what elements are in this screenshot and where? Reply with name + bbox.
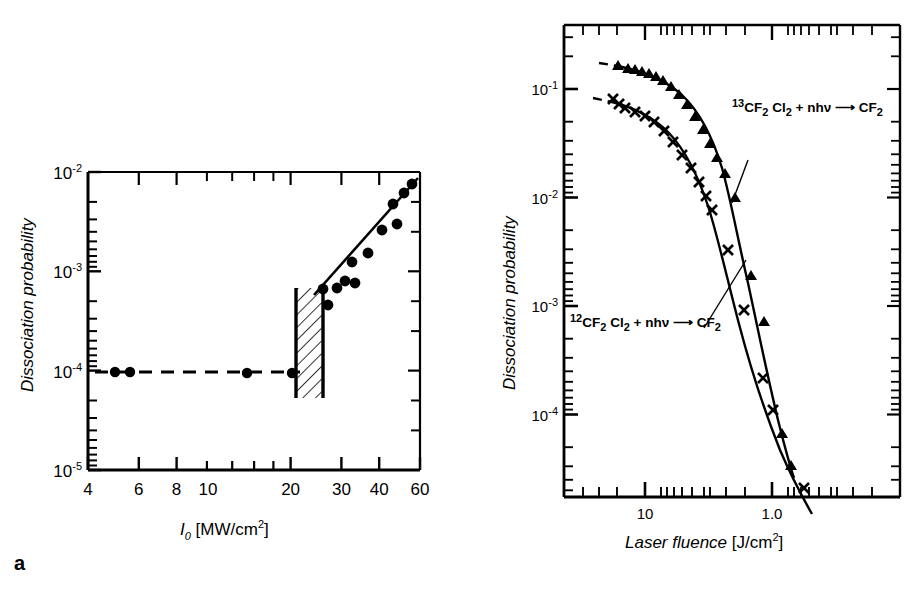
data-point — [347, 257, 358, 268]
svg-text:10-4: 10-4 — [53, 361, 82, 382]
panel-b-x-axis-units-open: [J/cm — [732, 533, 773, 552]
svg-text:10-4: 10-4 — [532, 405, 558, 424]
panel-a-x-axis-units-close: ] — [264, 520, 269, 539]
svg-text:10-2: 10-2 — [532, 188, 558, 207]
cf2cl2-13-sub3: 2 — [877, 106, 883, 118]
panel-a-y-axis-title: Dissociation probability — [18, 217, 37, 392]
svg-text:10-1: 10-1 — [532, 79, 558, 98]
panel-b-xtick-label-0: 10 — [637, 505, 654, 522]
cf2cl2-12-cl: Cl — [610, 315, 624, 330]
cf2cl2-12-annotation: 12CF2 Cl2 + nhν ⟶ CF2 — [570, 312, 721, 333]
cf2cl2-13-annotation: 13CF2 Cl2 + nhν ⟶ CF2 — [732, 97, 883, 118]
data-point — [758, 373, 768, 383]
cf2cl2-12-product: CF — [697, 315, 715, 330]
data-point — [340, 276, 351, 287]
panel-b-xtick-label-1: 1.0 — [762, 505, 783, 522]
panel-a-xtick-label-6: 40 — [370, 480, 389, 499]
cf2cl2-13-arrow: ⟶ — [835, 100, 855, 115]
cf2cl2-13-cf: CF — [744, 100, 762, 115]
panel-b-x-axis-title-main: Laser fluence — [625, 533, 727, 552]
data-point — [407, 179, 418, 190]
data-point — [392, 219, 403, 230]
panel-a-ytick-label-3: 10 — [53, 462, 72, 481]
svg-text:10-3: 10-3 — [53, 261, 82, 282]
panel-a-ytick-exp-2: -4 — [72, 361, 82, 373]
panel-a-xtick-label-7: 60 — [411, 480, 430, 499]
data-point — [318, 284, 329, 295]
panel-a: Dissociation probability — [0, 0, 460, 602]
panel-b-x-axis-title: Laser fluence [J/cm2] — [625, 531, 783, 552]
data-point — [399, 188, 410, 199]
panel-b-leader-line-13 — [732, 160, 748, 203]
cf2cl2-13-product: CF — [859, 100, 877, 115]
panel-a-ytick-exp-3: -5 — [72, 460, 82, 472]
panel-b-series-triangle-points — [612, 60, 797, 470]
data-point — [363, 248, 374, 259]
data-point — [723, 245, 733, 255]
panel-a-series-plateau-points — [110, 367, 297, 378]
data-point — [739, 305, 749, 315]
data-point — [758, 316, 770, 326]
panel-a-xtick-label-5: 30 — [332, 480, 351, 499]
panel-b-ytick-label-2: 10 — [532, 298, 549, 315]
panel-b-right-ticks — [887, 37, 900, 480]
panel-a-x-ticks — [88, 172, 420, 470]
panel-a-series-rise-points — [318, 179, 418, 311]
data-point — [612, 60, 624, 70]
data-point — [287, 368, 297, 378]
panel-a-ytick-exp-0: -2 — [72, 162, 82, 174]
panel-b: Dissociation probability — [460, 0, 919, 602]
cf2cl2-12-cf: CF — [582, 315, 600, 330]
svg-text:10-3: 10-3 — [532, 296, 558, 315]
panel-a-plot: Dissociation probability — [0, 0, 460, 602]
data-point — [125, 367, 135, 377]
cf2cl2-12-arrow: ⟶ — [673, 315, 693, 330]
cf2cl2-13-cl: Cl — [772, 100, 786, 115]
panel-a-ytick-label-2: 10 — [53, 363, 72, 382]
panel-a-threshold-band — [296, 288, 323, 398]
panel-a-xtick-label-3: 10 — [199, 480, 218, 499]
panel-b-ytick-exp-1: -2 — [548, 188, 558, 200]
panel-b-y-ticks — [564, 37, 578, 490]
panel-a-y-ticks — [88, 172, 101, 470]
panel-b-plot: Dissociation probability — [460, 0, 919, 602]
panel-a-xtick-label-0: 4 — [83, 480, 92, 499]
panel-a-x-axis-title: I0 [MW/cm2] — [180, 518, 269, 542]
panel-a-x-tick-labels: 4 6 8 10 20 30 40 60 — [83, 480, 429, 499]
data-point — [694, 177, 704, 187]
data-point — [388, 199, 399, 210]
panel-b-y-axis-title: Dissociation probability — [500, 215, 519, 390]
svg-text:10-2: 10-2 — [53, 162, 82, 183]
panel-b-ytick-exp-2: -3 — [548, 296, 558, 308]
panel-b-ytick-label-0: 10 — [532, 81, 549, 98]
panel-b-x-axis-units-close: ] — [779, 533, 784, 552]
cf2cl2-12-isotope: 12 — [570, 312, 582, 324]
panel-a-letter: a — [14, 552, 25, 575]
panel-b-ytick-label-3: 10 — [532, 407, 549, 424]
data-point — [377, 225, 388, 236]
cf2cl2-13-photons: + nhν — [796, 100, 832, 115]
panel-b-x-tick-labels: 10 1.0 — [637, 505, 783, 522]
panel-a-ytick-label-0: 10 — [53, 164, 72, 183]
panel-a-ytick-exp-1: -3 — [72, 261, 82, 273]
figure-container: Dissociation probability — [0, 0, 919, 602]
cf2cl2-13-isotope: 13 — [732, 97, 744, 109]
panel-a-xtick-label-4: 20 — [281, 480, 300, 499]
cf2cl2-12-photons: + nhν — [634, 315, 670, 330]
data-point — [776, 428, 788, 438]
panel-b-ytick-label-1: 10 — [532, 190, 549, 207]
panel-a-xtick-label-1: 6 — [134, 480, 143, 499]
panel-a-x-axis-units-open: [MW/cm — [196, 520, 258, 539]
data-point — [110, 367, 120, 377]
panel-a-ytick-label-1: 10 — [53, 263, 72, 282]
panel-b-ytick-exp-3: -4 — [548, 405, 558, 417]
data-point — [711, 152, 723, 162]
data-point — [350, 278, 361, 289]
panel-b-cross-curve — [612, 102, 812, 514]
data-point — [242, 368, 252, 378]
panel-b-x-ticks — [583, 25, 872, 497]
panel-a-xtick-label-2: 8 — [172, 480, 181, 499]
data-point — [719, 168, 731, 178]
cf2cl2-12-sub3: 2 — [715, 321, 721, 333]
panel-b-y-tick-labels: 10-1 10-2 10-3 10-4 — [532, 79, 558, 424]
